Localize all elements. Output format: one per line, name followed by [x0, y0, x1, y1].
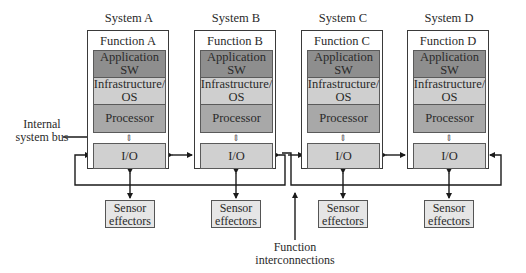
application-sw-layer: Application SW: [93, 50, 166, 78]
function-d-title: Function D: [408, 34, 488, 49]
system-b-box: Function B Application SW Infrastructure…: [194, 30, 276, 169]
function-b-title: Function B: [195, 34, 275, 49]
application-sw-layer: Application SW: [413, 50, 486, 78]
infrastructure-os-layer: Infrastructure/ OS: [93, 78, 166, 105]
system-a-box: Function A Application SW Infrastructure…: [87, 30, 169, 169]
function-interconnections-label: Function interconnections: [240, 241, 350, 267]
io-layer: I/O: [93, 143, 166, 169]
system-b-title: System B: [194, 11, 278, 26]
processor-layer: Processor: [307, 105, 380, 133]
infrastructure-os-layer: Infrastructure/ OS: [413, 78, 486, 105]
function-c-title: Function C: [302, 34, 382, 49]
sensor-effectors-a: Sensor effectors: [105, 200, 155, 228]
processor-layer: Processor: [200, 105, 273, 133]
infrastructure-os-layer: Infrastructure/ OS: [200, 78, 273, 105]
io-layer: I/O: [307, 143, 380, 169]
internal-bus-icon: ⇕: [125, 133, 131, 143]
internal-bus-icon: ⇕: [445, 133, 451, 143]
internal-system-bus-label: Internal system bus: [14, 118, 70, 144]
function-a-title: Function A: [88, 34, 168, 49]
io-layer: I/O: [200, 143, 273, 169]
processor-layer: Processor: [93, 105, 166, 133]
system-d-box: Function D Application SW Infrastructure…: [407, 30, 489, 169]
sensor-effectors-b: Sensor effectors: [211, 200, 261, 228]
system-c-title: System C: [301, 11, 385, 26]
processor-layer: Processor: [413, 105, 486, 133]
sensor-effectors-c: Sensor effectors: [318, 200, 368, 228]
io-layer: I/O: [413, 143, 486, 169]
system-c-box: Function C Application SW Infrastructure…: [301, 30, 383, 169]
infrastructure-os-layer: Infrastructure/ OS: [307, 78, 380, 105]
application-sw-layer: Application SW: [200, 50, 273, 78]
sensor-effectors-d: Sensor effectors: [424, 200, 474, 228]
application-sw-layer: Application SW: [307, 50, 380, 78]
system-a-title: System A: [87, 11, 171, 26]
system-d-title: System D: [407, 11, 491, 26]
internal-bus-icon: ⇕: [339, 133, 345, 143]
internal-bus-icon: ⇕: [232, 133, 238, 143]
